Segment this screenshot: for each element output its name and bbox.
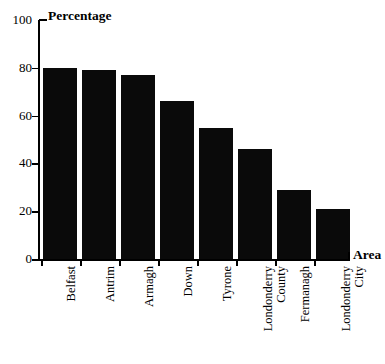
x-axis-category-label: LondonderryCity [340, 266, 366, 331]
bar [238, 149, 272, 259]
bar [43, 68, 77, 259]
bar [82, 70, 116, 259]
y-axis-title-tick [39, 19, 47, 21]
x-axis-category-label: Antrim [104, 266, 117, 302]
bar [160, 101, 194, 259]
y-axis-tick-labels: 020406080100 [0, 0, 32, 364]
y-axis-tick-label: 20 [4, 204, 32, 217]
x-axis-category-label-line: Armagh [142, 266, 156, 307]
x-axis-line [38, 259, 350, 261]
y-axis-tick-label: 80 [4, 61, 32, 74]
x-axis-category-label-line: Londonderry [261, 266, 275, 331]
x-axis-category-label: Belfast [65, 266, 78, 301]
x-axis-category-labels: BelfastAntrimArmaghDownTyroneLondonderry… [38, 266, 350, 364]
x-axis-category-label-line: City [353, 266, 366, 331]
x-axis-title: Area [353, 248, 381, 262]
y-axis-tick-label: 100 [4, 13, 32, 26]
y-axis-tick-label: 40 [4, 156, 32, 169]
x-axis-category-label-line: Londonderry [339, 266, 353, 331]
x-axis-category-label: Armagh [143, 266, 156, 307]
y-axis-tick-label: 60 [4, 109, 32, 122]
x-axis-category-label: Down [182, 266, 195, 297]
x-axis-category-label-line: Belfast [64, 266, 78, 301]
bar [121, 75, 155, 259]
y-axis-tick-label: 0 [4, 252, 32, 265]
bar-chart: 020406080100 Percentage Area BelfastAntr… [0, 0, 385, 364]
x-axis-category-label: Fermanagh [299, 266, 312, 322]
bar [277, 190, 311, 259]
x-axis-category-label: LondonderryCounty [262, 266, 288, 331]
x-axis-category-label-line: Tyrone [220, 266, 234, 301]
x-axis-category-label-line: Fermanagh [298, 266, 312, 322]
x-axis-category-label-line: County [275, 266, 288, 331]
bars-layer [38, 20, 350, 259]
bar [199, 128, 233, 259]
x-axis-category-label-line: Antrim [103, 266, 117, 302]
x-axis-title-tick [348, 252, 350, 260]
bar [316, 209, 350, 259]
x-axis-category-label: Tyrone [221, 266, 234, 301]
x-axis-category-label-line: Down [181, 266, 195, 297]
